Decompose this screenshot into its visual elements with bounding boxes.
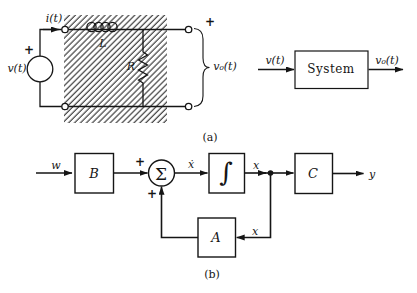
- output-plus-sign: +: [205, 16, 215, 28]
- block-b-label: B: [89, 167, 99, 180]
- system-box-label: System: [307, 63, 354, 75]
- terminal-top-left: [62, 26, 68, 32]
- figure-canvas: + v(t) i(t) L R + v₀(t) (a) v(t) System …: [0, 0, 417, 293]
- circuit-diagram: [27, 15, 209, 123]
- figure-linework: [0, 0, 417, 293]
- output-voltage-label: v₀(t): [213, 61, 237, 72]
- wire-source-to-top-terminal: [40, 30, 62, 57]
- caption-b: (b): [204, 269, 220, 280]
- output-voltage-brace: [194, 29, 210, 107]
- terminal-bottom-right: [185, 103, 191, 109]
- terminal-bottom-left: [62, 103, 68, 109]
- caption-a: (a): [202, 132, 217, 143]
- resistor-label: R: [127, 61, 135, 72]
- output-y-label: y: [369, 169, 375, 180]
- sum-plus-feedback-sign: +: [147, 188, 157, 200]
- terminal-top-right: [185, 26, 191, 32]
- state-x-label: x: [253, 160, 259, 171]
- voltage-source-symbol: [27, 56, 53, 82]
- block-c-label: C: [308, 167, 318, 180]
- block-a-label: A: [211, 231, 220, 244]
- feedback-x-label: x: [252, 226, 258, 237]
- a-to-sum-arrow: [162, 187, 199, 238]
- system-input-label: v(t): [265, 55, 284, 66]
- sum-plus-input-sign: +: [135, 156, 145, 168]
- source-voltage-label: v(t): [7, 63, 26, 74]
- input-w-label: w: [51, 160, 60, 171]
- system-output-label: v₀(t): [375, 55, 399, 66]
- integrator-symbol: ∫: [219, 159, 233, 185]
- source-plus-sign: +: [24, 44, 34, 56]
- inductor-label: L: [99, 38, 106, 49]
- current-label: i(t): [46, 13, 63, 24]
- xdot-label: ẋ: [188, 159, 194, 170]
- sum-sigma-symbol: Σ: [155, 166, 167, 183]
- wire-source-to-bottom-terminal: [40, 82, 62, 107]
